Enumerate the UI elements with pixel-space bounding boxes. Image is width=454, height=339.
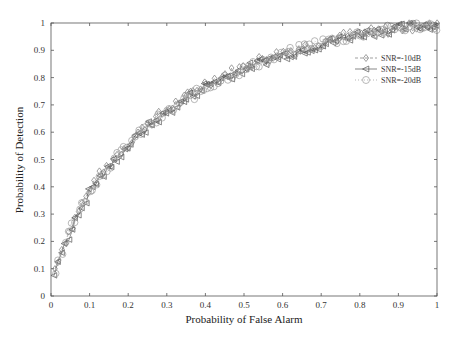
x-tick-label: 0.5 (238, 300, 250, 310)
legend: SNR=-10dBSNR=-15dBSNR=-20dB (355, 54, 421, 85)
circle-marker (311, 38, 317, 44)
circle-marker (363, 77, 370, 84)
y-tick-label: 0.4 (34, 182, 46, 192)
x-tick-label: 0.9 (393, 300, 405, 310)
y-tick-label: 0 (41, 291, 46, 301)
y-tick-label: 0.1 (34, 264, 45, 274)
y-axis-title: Probability of Detection (13, 106, 25, 213)
legend-label: SNR=-15dB (381, 65, 421, 74)
x-axis-title: Probability of False Alarm (185, 313, 302, 325)
legend-item: SNR=-20dB (355, 76, 421, 85)
legend-item: SNR=-15dB (355, 65, 421, 74)
y-tick-label: 0.3 (34, 209, 46, 219)
x-tick-label: 0.4 (200, 300, 212, 310)
legend-item: SNR=-10dB (355, 54, 421, 63)
x-tick-label: 0.3 (161, 300, 173, 310)
circle-marker (211, 83, 217, 89)
y-tick-label: 1 (41, 18, 46, 28)
y-tick-label: 0.7 (34, 100, 46, 110)
x-tick-label: 0 (49, 300, 54, 310)
legend-label: SNR=-10dB (381, 54, 421, 63)
y-tick-label: 0.2 (34, 236, 45, 246)
roc-chart: 00.10.20.30.40.50.60.70.80.91 00.10.20.3… (0, 0, 454, 339)
series-line (56, 23, 437, 273)
series-line (54, 23, 436, 275)
y-tick-label: 0.5 (34, 155, 46, 165)
y-tick-label: 0.9 (34, 45, 46, 55)
triangle-left-marker (51, 273, 57, 278)
x-tick-label: 0.8 (354, 300, 366, 310)
x-tick-label: 0.6 (277, 300, 289, 310)
x-tick-label: 0.2 (123, 300, 134, 310)
x-tick-label: 1 (435, 300, 440, 310)
legend-label: SNR=-20dB (381, 76, 421, 85)
y-tick-label: 0.6 (34, 127, 46, 137)
series-line (55, 23, 437, 269)
x-tick-label: 0.7 (316, 300, 328, 310)
y-tick-label: 0.8 (34, 73, 46, 83)
y-axis-ticks: 00.10.20.30.40.50.60.70.80.91 (34, 18, 437, 301)
x-tick-label: 0.1 (84, 300, 95, 310)
